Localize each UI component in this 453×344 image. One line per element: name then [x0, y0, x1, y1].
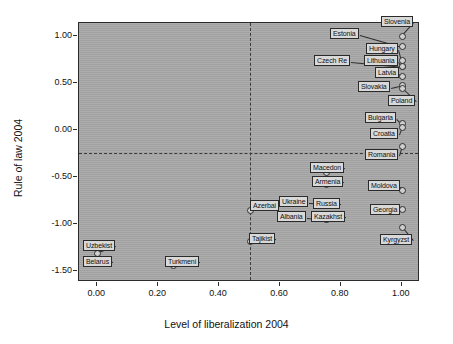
data-point [399, 143, 406, 150]
y-tick-label: 1.00 [32, 30, 72, 40]
data-point [399, 85, 406, 92]
data-point [399, 33, 406, 40]
x-tick-label: 0.80 [331, 288, 349, 298]
x-tick-label: 0.00 [88, 288, 106, 298]
x-axis-title: Level of liberalization 2004 [0, 318, 453, 330]
y-tick-mark [73, 35, 77, 36]
point-label: Czech Re [314, 55, 350, 66]
point-label: Turkmeni [165, 256, 199, 267]
point-label: Estonia [330, 28, 359, 39]
y-tick-label: -1.50 [32, 265, 72, 275]
x-tick-mark [340, 282, 341, 286]
x-tick-mark [96, 282, 97, 286]
scatter-plot-figure: SloveniaEstoniaHungaryLithuaniaCzech ReL… [0, 0, 453, 344]
x-tick-mark [401, 282, 402, 286]
y-tick-label: -1.00 [32, 218, 72, 228]
data-point [399, 73, 406, 80]
point-label: Armenia [312, 176, 343, 187]
point-label: Uzbekist [83, 240, 115, 251]
point-label: Latvia [375, 67, 399, 78]
y-tick-mark [73, 129, 77, 130]
point-label: Slovenia [381, 16, 413, 27]
y-tick-label: 0.00 [32, 124, 72, 134]
point-label: Tajikist [249, 233, 275, 244]
point-label: Georgia [370, 204, 400, 215]
data-point [399, 43, 406, 50]
point-label: Bulgaria [365, 112, 396, 123]
x-tick-mark [279, 282, 280, 286]
y-tick-mark [73, 223, 77, 224]
point-label: Kyrgyzst [380, 234, 412, 245]
y-tick-mark [73, 176, 77, 177]
point-label: Kazakhst [311, 211, 345, 222]
point-label: Lithuania [364, 55, 398, 66]
point-label: Slovakia [358, 81, 390, 92]
y-axis-title: Rule of law 2004 [12, 88, 24, 228]
data-point [399, 187, 406, 194]
data-point [399, 63, 406, 70]
x-tick-label: 0.60 [270, 288, 288, 298]
point-label: Romania [365, 149, 398, 160]
point-label: Albania [277, 211, 306, 222]
point-label: Moldova [368, 180, 400, 191]
y-tick-mark [73, 270, 77, 271]
point-label: Russia [313, 198, 340, 209]
point-label: Macedon [310, 162, 344, 173]
point-label: Azerbai [250, 200, 279, 211]
x-tick-label: 1.00 [392, 288, 410, 298]
point-label: Croatia [370, 128, 398, 139]
y-tick-label: 0.50 [32, 77, 72, 87]
point-label: Hungary [366, 43, 398, 54]
x-tick-label: 0.20 [148, 288, 166, 298]
x-tick-mark [157, 282, 158, 286]
point-label: Poland [388, 95, 415, 106]
y-tick-mark [73, 82, 77, 83]
x-tick-label: 0.40 [209, 288, 227, 298]
data-point [399, 224, 406, 231]
y-tick-label: -0.50 [32, 171, 72, 181]
point-label: Belarus [83, 256, 112, 267]
point-label: Ukraine [279, 196, 308, 207]
x-tick-mark [218, 282, 219, 286]
data-point [399, 124, 406, 131]
